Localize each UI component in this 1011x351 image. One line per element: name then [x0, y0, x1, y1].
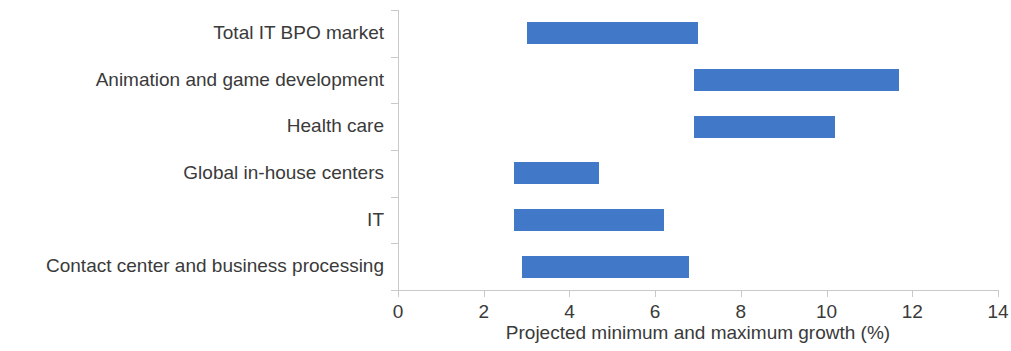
y-axis-label-2: Health care: [287, 103, 384, 150]
y-axis-tick: [391, 290, 398, 291]
x-axis-tick-label-4: 8: [721, 301, 761, 323]
x-axis-tick: [398, 290, 399, 297]
x-axis-tick: [912, 290, 913, 297]
x-axis-tick: [741, 290, 742, 297]
y-axis-label-1: Animation and game development: [96, 57, 384, 104]
x-axis-tick-label-3: 6: [635, 301, 675, 323]
y-axis-category-labels: Total IT BPO market Animation and game d…: [0, 10, 392, 290]
x-axis-tick-label-7: 14: [978, 301, 1011, 323]
bar-2: [694, 116, 835, 138]
x-axis-line: [398, 290, 998, 291]
y-axis-tick: [391, 10, 398, 11]
y-axis-label-0: Total IT BPO market: [213, 10, 384, 57]
bar-0: [527, 22, 698, 44]
y-axis-label-3: Global in-house centers: [183, 150, 384, 197]
x-axis-tick: [998, 290, 999, 297]
bar-4: [514, 209, 664, 231]
bar-5: [522, 256, 689, 278]
x-axis-tick-label-6: 12: [892, 301, 932, 323]
x-axis-title: Projected minimum and maximum growth (%): [398, 322, 998, 344]
x-axis-tick-label-1: 2: [464, 301, 504, 323]
bar-3: [514, 162, 600, 184]
range-bar-chart: Total IT BPO market Animation and game d…: [0, 0, 1011, 351]
y-axis-tick: [391, 103, 398, 104]
y-axis-label-4: IT: [367, 197, 384, 244]
y-axis-tick: [391, 243, 398, 244]
x-axis-tick: [484, 290, 485, 297]
x-axis-tick-label-2: 4: [549, 301, 589, 323]
x-axis-tick-label-0: 0: [378, 301, 418, 323]
plot-area: 02468101214: [398, 10, 998, 290]
y-axis-label-5: Contact center and business processing: [46, 243, 384, 290]
y-axis-tick: [391, 150, 398, 151]
x-axis-tick-label-5: 10: [807, 301, 847, 323]
y-axis-tick: [391, 57, 398, 58]
x-axis-tick: [827, 290, 828, 297]
bar-1: [694, 69, 900, 91]
x-axis-tick: [569, 290, 570, 297]
y-axis-tick: [391, 197, 398, 198]
y-axis-line: [398, 10, 399, 291]
x-axis-tick: [655, 290, 656, 297]
